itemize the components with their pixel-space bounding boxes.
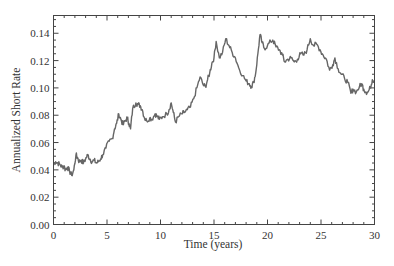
x-tick-label: 10 [155,229,167,241]
y-axis-label: Annualized Short Rate [10,68,22,173]
x-tick-label: 25 [316,229,328,241]
major-ticks [54,16,375,225]
y-axis-tick-labels: 0.000.020.040.060.080.100.120.14 [30,27,50,230]
plot-frame [54,16,375,225]
x-axis-label: Time (years) [184,238,243,251]
line-chart: 0.000.020.040.060.080.100.120.14 0510152… [0,0,394,266]
y-tick-label: 0.10 [30,82,50,94]
x-tick-label: 30 [369,229,381,241]
y-tick-label: 0.02 [30,191,49,203]
short-rate-line [54,35,375,176]
y-tick-label: 0.04 [30,164,50,176]
x-tick-label: 0 [51,229,57,241]
y-tick-label: 0.08 [30,109,50,121]
y-tick-label: 0.14 [30,27,50,39]
minor-ticks [54,16,375,225]
y-tick-label: 0.00 [30,219,50,231]
x-tick-label: 5 [104,229,110,241]
y-tick-label: 0.12 [30,55,49,67]
y-tick-label: 0.06 [30,137,50,149]
x-tick-label: 20 [262,229,274,241]
